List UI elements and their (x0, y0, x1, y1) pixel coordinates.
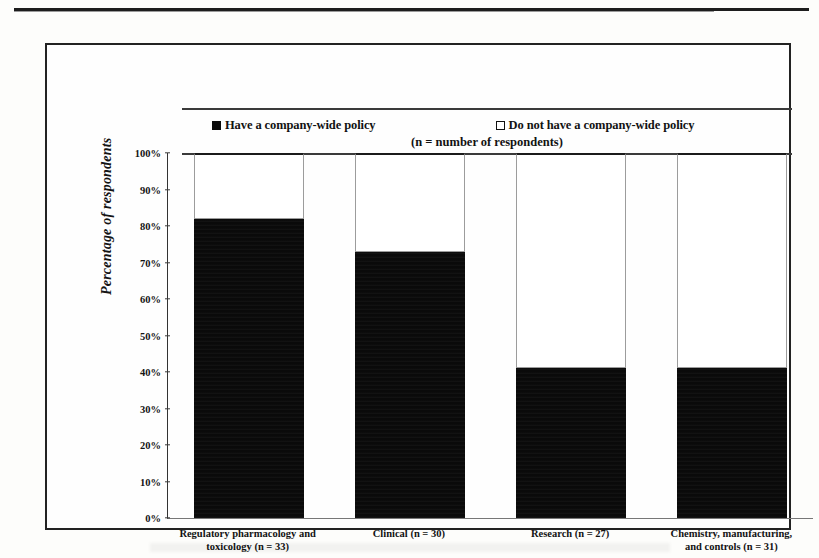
y-tick-label: 70% (140, 257, 168, 268)
bar-segment-no-policy[interactable] (516, 153, 626, 368)
y-axis-title: Percentage of respondents (99, 138, 115, 295)
bar-series-container (168, 153, 813, 518)
y-tick-label: 90% (140, 184, 168, 195)
scan-top-rule (14, 8, 809, 11)
y-tick-label: 10% (140, 476, 168, 487)
chart-plot-area: Percentage of respondents 100%90%80%70%6… (107, 145, 819, 558)
open-square-icon (496, 121, 505, 130)
x-category-label-line: Research (n = 27) (494, 527, 647, 540)
legend-entries: Have a company-wide policy Do not have a… (182, 110, 792, 135)
x-category-label-line: Chemistry, manufacturing, (655, 527, 808, 540)
y-tick-label: 50% (140, 330, 168, 341)
y-tick-label: 20% (140, 440, 168, 451)
legend-item-have-policy: Have a company-wide policy (212, 118, 376, 133)
plot-canvas: 100%90%80%70%60%50%40%30%20%10%0% (167, 153, 813, 519)
bar-segment-no-policy[interactable] (194, 153, 304, 219)
bar-segment-have-policy[interactable] (516, 368, 626, 518)
chart-figure-frame: Have a company-wide policy Do not have a… (45, 43, 791, 530)
x-category-label-line: and controls (n = 31) (655, 540, 808, 553)
bar-segment-have-policy[interactable] (677, 368, 787, 518)
legend-label-have-policy: Have a company-wide policy (225, 118, 376, 133)
stacked-bar[interactable] (516, 153, 626, 518)
x-category-label-line: Regulatory pharmacology and (171, 527, 324, 540)
y-tick-label: 80% (140, 221, 168, 232)
bar-segment-no-policy[interactable] (355, 153, 465, 252)
y-tick-label: 30% (140, 403, 168, 414)
legend-label-no-policy: Do not have a company-wide policy (509, 118, 695, 133)
x-category-label: Chemistry, manufacturing,and controls (n… (651, 527, 812, 553)
y-tick-label: 40% (140, 367, 168, 378)
x-category-label-line: Clinical (n = 30) (332, 527, 485, 540)
y-tick-label: 100% (135, 148, 168, 159)
stacked-bar[interactable] (194, 153, 304, 518)
bar-slot (491, 153, 652, 518)
stacked-bar[interactable] (677, 153, 787, 518)
bar-segment-no-policy[interactable] (677, 153, 787, 368)
bar-slot (652, 153, 813, 518)
scan-smudge (150, 543, 670, 552)
bar-slot (168, 153, 329, 518)
bar-segment-have-policy[interactable] (194, 219, 304, 518)
bar-slot (329, 153, 490, 518)
bar-segment-have-policy[interactable] (355, 252, 465, 518)
stacked-bar[interactable] (355, 153, 465, 518)
filled-square-icon (212, 121, 221, 130)
legend-item-no-policy: Do not have a company-wide policy (496, 118, 695, 133)
y-tick-label: 60% (140, 294, 168, 305)
